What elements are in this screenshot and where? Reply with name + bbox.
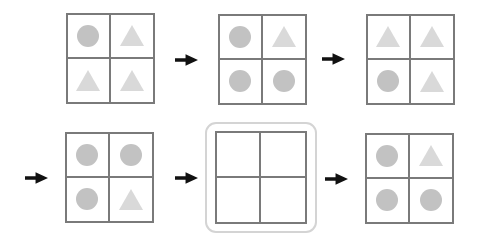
- circle-shape-icon: [76, 144, 98, 166]
- grid-cell: [367, 179, 410, 223]
- grid-cell: [68, 59, 111, 103]
- grid-cell: [410, 135, 453, 179]
- grid-cell: [217, 133, 261, 178]
- arrow-right-icon: [25, 171, 48, 185]
- grid-cell: [261, 178, 305, 223]
- triangle-shape-icon: [420, 26, 444, 47]
- answer-highlight-box: [205, 122, 317, 233]
- grid-cell: [68, 15, 111, 59]
- circle-shape-icon: [120, 144, 142, 166]
- arrow-right-icon: [322, 52, 345, 66]
- grid-cell: [220, 60, 263, 104]
- grid-cell: [410, 179, 453, 223]
- grid-cell: [411, 60, 454, 104]
- grid-cell: [367, 135, 410, 179]
- sequence-grid-6: [365, 133, 454, 224]
- grid-cell: [111, 15, 154, 59]
- circle-shape-icon: [76, 188, 98, 210]
- circle-shape-icon: [77, 25, 99, 47]
- grid-cell: [368, 60, 411, 104]
- triangle-shape-icon: [119, 189, 143, 210]
- circle-shape-icon: [273, 70, 295, 92]
- grid-cell: [263, 60, 306, 104]
- grid-cell: [110, 178, 153, 222]
- circle-shape-icon: [420, 189, 442, 211]
- circle-shape-icon: [229, 26, 251, 48]
- triangle-shape-icon: [420, 71, 444, 92]
- arrow-right-icon: [175, 53, 198, 67]
- triangle-shape-icon: [419, 145, 443, 166]
- grid-cell: [368, 16, 411, 60]
- grid-cell: [111, 59, 154, 103]
- triangle-shape-icon: [120, 25, 144, 46]
- grid-cell: [411, 16, 454, 60]
- triangle-shape-icon: [120, 70, 144, 91]
- grid-cell: [217, 178, 261, 223]
- diagram-canvas: [0, 0, 477, 241]
- sequence-grid-2: [218, 14, 307, 105]
- triangle-shape-icon: [376, 26, 400, 47]
- sequence-grid-1: [66, 13, 155, 104]
- grid-cell: [67, 134, 110, 178]
- triangle-shape-icon: [272, 26, 296, 47]
- sequence-grid-3: [366, 14, 455, 105]
- circle-shape-icon: [376, 145, 398, 167]
- grid-cell: [220, 16, 263, 60]
- grid-cell: [263, 16, 306, 60]
- arrow-right-icon: [175, 171, 198, 185]
- sequence-grid-4: [65, 132, 154, 223]
- circle-shape-icon: [229, 70, 251, 92]
- arrow-right-icon: [325, 172, 348, 186]
- triangle-shape-icon: [76, 70, 100, 91]
- circle-shape-icon: [377, 70, 399, 92]
- sequence-grid-5-empty: [215, 131, 307, 224]
- grid-cell: [110, 134, 153, 178]
- grid-cell: [261, 133, 305, 178]
- grid-cell: [67, 178, 110, 222]
- circle-shape-icon: [376, 189, 398, 211]
